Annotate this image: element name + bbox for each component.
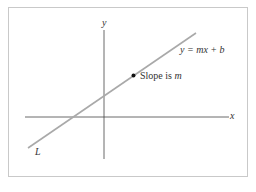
line-L	[28, 33, 196, 148]
point-marker	[132, 74, 136, 78]
equation-label: y = mx + b	[180, 45, 225, 55]
graph-canvas	[0, 0, 256, 192]
line-name-label: L	[35, 147, 41, 157]
y-axis-label: y	[102, 18, 106, 28]
slope-symbol: m	[174, 70, 181, 81]
slope-annotation: Slope is m	[140, 71, 182, 81]
slope-prefix: Slope is	[140, 70, 174, 81]
x-axis-label: x	[230, 111, 234, 121]
